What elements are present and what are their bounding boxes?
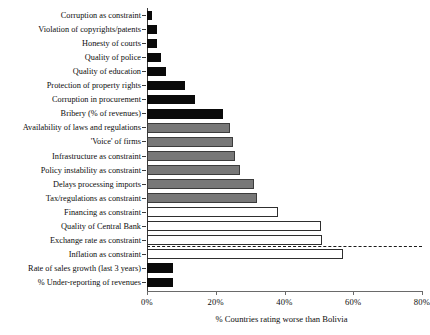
bar <box>147 81 185 91</box>
category-label: % Under-reporting of revenues <box>38 275 147 291</box>
bar <box>147 39 157 49</box>
x-axis-tick <box>353 291 354 295</box>
bar <box>147 249 343 259</box>
bar <box>147 193 257 203</box>
x-axis-tick <box>285 291 286 295</box>
bar <box>147 137 233 147</box>
bar <box>147 123 230 133</box>
bar <box>147 109 223 119</box>
bar <box>147 151 235 161</box>
bar <box>147 165 240 175</box>
bar <box>147 11 152 21</box>
bar <box>147 207 278 217</box>
group-separator-line <box>147 246 422 247</box>
bar <box>147 278 173 288</box>
x-axis-tick-label: 20% <box>208 297 224 307</box>
x-axis-tick-label: 0% <box>141 297 153 307</box>
x-axis-title-text: % Countries rating worse than Bolivia <box>216 314 348 324</box>
x-axis-tick-label: 40% <box>276 297 292 307</box>
bar <box>147 53 161 63</box>
x-axis-tick <box>216 291 217 295</box>
bar <box>147 221 321 231</box>
bar <box>147 179 254 189</box>
bar <box>147 25 157 35</box>
bar <box>147 263 173 273</box>
x-axis-tick <box>147 291 148 295</box>
bar <box>147 67 166 77</box>
x-axis-tick-label: 80% <box>414 297 430 307</box>
bar-row: % Under-reporting of revenues <box>147 275 422 291</box>
bar <box>147 95 195 105</box>
x-axis-tick-label: 60% <box>345 297 361 307</box>
bar <box>147 235 322 245</box>
x-axis-title: % Countries rating worse than Bolivia <box>0 314 429 324</box>
x-axis-tick <box>422 291 423 295</box>
